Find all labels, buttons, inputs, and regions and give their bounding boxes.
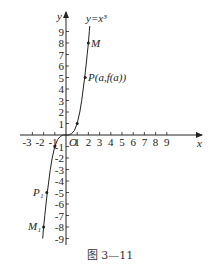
x-tick-label: -3 [22,136,32,148]
origin-label: O [69,136,77,148]
point-m [87,42,90,45]
y-axis-label: y [56,10,62,22]
x-tick-label: -2 [35,136,44,148]
label-m1: M₁ [27,220,41,232]
y-tick-label: 2 [59,106,65,118]
x-tick-label: 2 [86,136,92,148]
cubic-function-diagram: -3 -2 -1 1 2 3 4 5 6 7 8 9 O x y 9 [0,0,212,267]
x-tick-labels: -3 -2 -1 1 2 3 4 5 6 7 8 9 [22,136,170,148]
x-tick-label: 7 [142,136,148,148]
x-axis-label: x [196,137,202,149]
x-tick-label: 3 [97,136,103,148]
label-p: P(a,f(a)) [87,71,127,84]
x-tick-label: 9 [164,136,170,148]
y-tick-label: -4 [55,175,65,187]
y-tick-label: -5 [55,187,65,199]
curve-label: y=x³ [85,12,107,24]
y-tick-label: 5 [59,72,65,84]
y-tick-label: -6 [55,198,65,210]
y-tick-label: 8 [59,37,65,49]
x-tick-label: 8 [153,136,159,148]
y-tick-label: 1 [59,118,65,130]
x-tick-label: 5 [119,136,125,148]
y-tick-label: -8 [55,221,65,233]
point-p [84,76,87,79]
y-tick-label: 4 [59,83,65,95]
y-tick-label: 9 [59,26,65,38]
label-p1: P₁ [32,186,44,198]
x-tick-label: 4 [108,136,114,148]
y-tick-label: 6 [59,60,65,72]
y-tick-label: 7 [59,49,65,61]
label-m: M [90,37,101,49]
y-tick-label: -3 [55,164,65,176]
y-tick-label: -2 [55,152,64,164]
y-tick-label: -9 [55,233,65,245]
point-neg1 [53,145,56,148]
x-tick-label: 6 [130,136,136,148]
figure-caption: 图 3—11 [87,249,134,262]
point-1-1 [76,122,79,125]
y-tick-label: 3 [59,95,65,107]
point-m1 [42,226,45,229]
y-tick-label: -7 [55,210,65,222]
point-p1 [45,191,48,194]
